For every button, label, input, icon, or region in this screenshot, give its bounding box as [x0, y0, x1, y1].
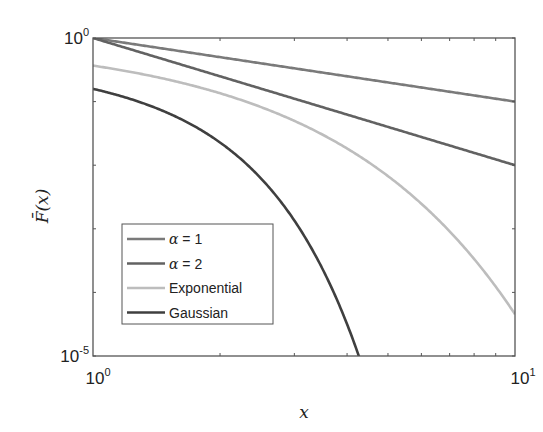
x-tick-label-1: 100 [85, 366, 110, 388]
chart: 10010110010-5 x F̄(x) α = 1α = 2Exponent… [0, 0, 543, 432]
plot-lines [93, 38, 515, 375]
legend-label: α = 2 [169, 256, 202, 272]
series-line-2 [93, 38, 515, 165]
y-tick-label-2: 10-5 [60, 344, 89, 366]
y-axis-label: F̄(x) [31, 189, 52, 225]
legend: α = 1α = 2ExponentialGaussian [122, 224, 273, 324]
y-tick-label-1: 100 [64, 26, 89, 48]
legend-label: α = 1 [169, 231, 202, 247]
legend-label: Exponential [169, 280, 242, 296]
series-line-1 [93, 38, 515, 102]
tick-labels: 10010110010-5 [60, 26, 535, 388]
x-tick-label-2: 101 [510, 366, 535, 388]
y-axis-label-group: F̄(x) [31, 189, 52, 225]
legend-label: Gaussian [169, 305, 228, 321]
x-axis-label: x [299, 402, 309, 422]
